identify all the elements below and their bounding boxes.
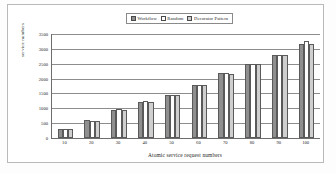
y-axis-tick-label: 2000 — [39, 76, 48, 81]
chart-frame: Workflow Random Decorator Pattern servic… — [7, 4, 324, 163]
y-axis-tick-label: 2500 — [39, 61, 48, 66]
y-axis-tick-label: 1000 — [39, 106, 48, 111]
bar-group — [192, 34, 208, 138]
x-axis-tick-labels: 102030405060708090100 — [51, 140, 319, 149]
y-axis-tick-labels: 0500100015002000250030003500 — [8, 34, 48, 138]
legend-entry-workflow: Workflow — [131, 16, 157, 21]
bar — [282, 55, 287, 138]
x-axis-tick-label: 60 — [185, 140, 212, 149]
bar — [256, 64, 261, 138]
bar-group — [84, 34, 100, 138]
figure-canvas: Workflow Random Decorator Pattern servic… — [0, 0, 336, 173]
bar — [95, 121, 100, 138]
x-axis-title: Atomic service request numbers — [51, 152, 319, 158]
bar-group — [165, 34, 181, 138]
x-axis-tick-label: 100 — [292, 140, 319, 149]
bar-group — [218, 34, 234, 138]
legend-entry-decorator-pattern: Decorator Pattern — [187, 16, 228, 21]
x-axis-tick-label: 90 — [265, 140, 292, 149]
bar — [148, 102, 153, 138]
bar — [175, 95, 180, 138]
legend-swatch-icon-workflow — [131, 16, 136, 21]
x-axis-tick-label: 30 — [105, 140, 132, 149]
x-axis-tick-label: 70 — [212, 140, 239, 149]
bar-group — [245, 34, 261, 138]
bar — [309, 44, 314, 138]
y-axis-tick-label: 1500 — [39, 91, 48, 96]
x-axis-tick-label: 10 — [51, 140, 78, 149]
legend-label-random: Random — [167, 16, 183, 21]
bar-group — [58, 34, 74, 138]
legend-swatch-icon-decorator-pattern — [187, 16, 192, 21]
bar-group — [299, 34, 315, 138]
y-axis-tick-label: 3500 — [39, 32, 48, 37]
legend-label-workflow: Workflow — [138, 16, 157, 21]
x-axis-tick-label: 50 — [158, 140, 185, 149]
bar — [68, 129, 73, 138]
bar-group — [138, 34, 154, 138]
x-axis-tick-label: 80 — [239, 140, 266, 149]
bar — [229, 74, 234, 138]
bar — [122, 110, 127, 138]
y-axis-tick-label: 3000 — [39, 46, 48, 51]
legend-entry-random: Random — [161, 16, 184, 21]
bar — [202, 85, 207, 138]
y-axis-tick-label: 0 — [46, 136, 48, 141]
bar-group — [111, 34, 127, 138]
y-axis-tick-label: 500 — [41, 121, 48, 126]
bar-group — [272, 34, 288, 138]
chart-legend: Workflow Random Decorator Pattern — [126, 13, 233, 24]
plot-area — [51, 34, 320, 139]
x-axis-tick-label: 40 — [131, 140, 158, 149]
legend-swatch-icon-random — [161, 16, 166, 21]
legend-label-decorator-pattern: Decorator Pattern — [194, 16, 228, 21]
x-axis-tick-label: 20 — [78, 140, 105, 149]
bar-series-container — [52, 34, 320, 138]
